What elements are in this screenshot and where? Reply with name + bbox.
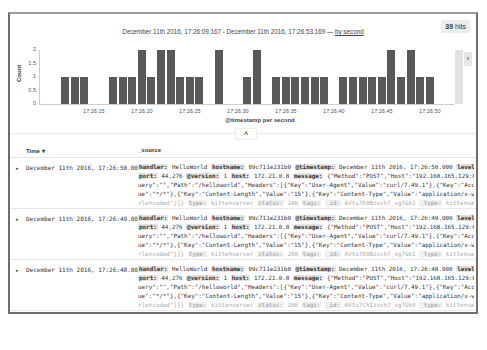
field-value: December 11th 2016, 17:26:48.000 — [336, 266, 457, 272]
histogram-bar[interactable] — [455, 50, 463, 104]
field-key: host: — [231, 275, 251, 281]
field-value: December 11th 2016, 17:26:50.000 — [336, 164, 457, 170]
field-value: 200 — [284, 251, 302, 257]
interval-link[interactable]: by second — [335, 28, 364, 35]
y-axis-label: Count — [16, 65, 22, 82]
histogram-bar[interactable] — [416, 77, 424, 104]
field-value: {"Method":"POST","Host":"192.168.165.129… — [323, 275, 474, 281]
column-header-time[interactable]: Time ▾ — [26, 147, 45, 154]
field-value: uery":"","Path":"/helloworld","Headers":… — [138, 182, 474, 188]
histogram-bar[interactable] — [138, 50, 146, 104]
x-axis-label: @timestamp per second — [10, 117, 478, 123]
field-key: message: — [293, 173, 323, 179]
histogram-bar[interactable] — [147, 77, 155, 104]
x-tick-label: 17:26:30 — [227, 108, 248, 114]
faded-fields: rlencoded"}]} type: kittenserver status:… — [138, 302, 474, 308]
histogram-bar[interactable] — [426, 77, 434, 104]
histogram-bar[interactable] — [128, 77, 136, 104]
chevron-up-icon[interactable]: ˄ — [235, 128, 257, 140]
field-key: handler: — [138, 164, 168, 170]
histogram-bar[interactable] — [339, 77, 347, 104]
histogram-bar[interactable] — [407, 50, 415, 104]
field-value: rlencoded"}]} — [138, 302, 188, 308]
field-value: rlencoded"}]} — [138, 200, 188, 206]
histogram-bar[interactable] — [80, 77, 88, 104]
field-value: kittenserver — [442, 200, 474, 206]
histogram-bar[interactable] — [167, 50, 175, 104]
histogram-bar[interactable] — [311, 77, 319, 104]
field-key: _type: — [419, 200, 442, 206]
histogram-bar[interactable] — [320, 77, 328, 104]
field-key: _type: — [419, 302, 442, 308]
field-key: hostname: — [211, 215, 245, 221]
histogram-bar[interactable] — [282, 77, 290, 104]
row-source: handler: HelloWorld hostname: 09c711e231… — [138, 265, 474, 310]
source-line: rlencoded"}]} type: kittenserver status:… — [138, 199, 474, 208]
faded-fields: rlencoded"}]} type: kittenserver status:… — [138, 251, 474, 257]
y-axis-line — [39, 50, 40, 104]
field-value: kittenserver — [207, 251, 257, 257]
source-line: uery":"","Path":"/helloworld","Headers":… — [138, 283, 474, 292]
field-value: 09c711e231b0 — [245, 215, 295, 221]
histogram-bar[interactable] — [378, 77, 386, 104]
y-tick-label: 2 — [24, 46, 36, 52]
table-row[interactable]: ▸December 11th 2016, 17:26:49.000handler… — [10, 210, 476, 260]
histogram-bar[interactable] — [195, 77, 203, 104]
histogram-bar[interactable] — [119, 77, 127, 104]
field-key: @version: — [186, 173, 220, 179]
source-line: rlencoded"}]} type: kittenserver status:… — [138, 250, 474, 259]
histogram-bar[interactable] — [272, 77, 280, 104]
field-value: {"Method":"POST","Host":"192.168.165.129… — [323, 224, 474, 230]
x-tick-label: 17:26:40 — [323, 108, 344, 114]
histogram-bar[interactable] — [71, 77, 79, 104]
field-key: level: — [456, 215, 474, 221]
field-value: 1 — [220, 173, 231, 179]
field-key: tags: — [302, 251, 322, 257]
histogram-bar[interactable] — [186, 77, 194, 104]
expand-row-icon[interactable]: ▸ — [16, 267, 19, 273]
source-line: handler: HelloWorld hostname: 09c711e231… — [138, 265, 474, 274]
field-key: _id: — [325, 251, 341, 257]
histogram-bar[interactable] — [291, 77, 299, 104]
source-line: uery":"","Path":"/helloworld","Headers":… — [138, 232, 474, 241]
field-key: handler: — [138, 215, 168, 221]
histogram-bar[interactable] — [253, 50, 261, 104]
expand-row-icon[interactable]: ▸ — [16, 165, 19, 171]
field-value: kittenserver — [442, 251, 474, 257]
source-line: uery":"","Path":"/helloworld","Headers":… — [138, 181, 474, 190]
table-row[interactable]: ▸December 11th 2016, 17:26:48.000handler… — [10, 261, 476, 311]
row-timestamp: December 11th 2016, 17:26:48.000 — [26, 266, 142, 273]
table-header: Time ▾ _source — [10, 144, 476, 158]
histogram-bar[interactable] — [387, 50, 395, 104]
histogram-bar[interactable] — [359, 77, 367, 104]
histogram-bar[interactable] — [368, 77, 376, 104]
field-value: ue":"*/*"},{"Key":"Content-Length","Valu… — [138, 242, 474, 248]
expand-row-icon[interactable]: ▸ — [16, 216, 19, 222]
histogram-bar[interactable] — [243, 77, 251, 104]
source-line: ue":"*/*"},{"Key":"Content-Length","Valu… — [138, 241, 474, 250]
field-key: port: — [138, 173, 158, 179]
source-line: handler: HelloWorld hostname: 09c711e231… — [138, 214, 474, 223]
histogram-bar[interactable] — [61, 77, 69, 104]
field-key: tags: — [302, 302, 322, 308]
histogram-bar[interactable] — [176, 77, 184, 104]
field-key: port: — [138, 275, 158, 281]
faded-fields: rlencoded"}]} type: kittenserver status:… — [138, 200, 474, 206]
source-line: port: 44,276 @version: 1 host: 172.21.0.… — [138, 223, 474, 232]
histogram-bar[interactable] — [349, 77, 357, 104]
field-value: {"Method":"POST","Host":"192.168.165.129… — [323, 173, 474, 179]
histogram-chart[interactable]: Count 21.510.50 17:26:1517:26:2017:26:25… — [10, 44, 478, 129]
field-value: 172.21.0.8 — [250, 224, 293, 230]
field-value: 09c711e231b0 — [245, 266, 295, 272]
histogram-bar[interactable] — [397, 77, 405, 104]
histogram-bar[interactable] — [215, 50, 223, 104]
column-header-source: _source — [138, 147, 161, 153]
table-row[interactable]: ▸December 11th 2016, 17:26:50.000handler… — [10, 159, 476, 209]
histogram-bar[interactable] — [157, 50, 165, 104]
field-key: _type: — [419, 251, 442, 257]
histogram-bar[interactable] — [301, 77, 309, 104]
time-range-title: December 11th 2016, 17:26:09.167 - Decem… — [10, 28, 476, 35]
histogram-bar[interactable] — [109, 77, 117, 104]
y-tick-label: 1 — [24, 73, 36, 79]
field-key: @version: — [186, 275, 220, 281]
